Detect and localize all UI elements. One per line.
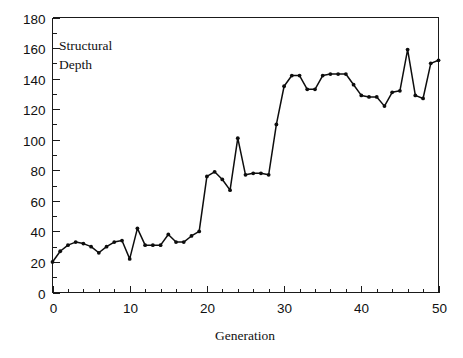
y-tick-label-80: 80 [30, 164, 45, 179]
data-point [166, 233, 170, 237]
x-tick-label-0: 0 [50, 301, 58, 316]
data-point [383, 104, 387, 108]
data-point [112, 240, 116, 244]
data-point [244, 173, 248, 177]
y-tick-label-60: 60 [30, 195, 45, 210]
y-tick-label-100: 100 [23, 134, 46, 149]
data-point [367, 95, 371, 99]
x-tick-label-30: 30 [277, 301, 292, 316]
x-axis-ticks [54, 286, 440, 293]
data-point [321, 74, 325, 78]
data-point [298, 74, 302, 78]
data-point [228, 188, 232, 192]
x-tick-label-40: 40 [354, 301, 369, 316]
x-tick-label-50: 50 [432, 301, 447, 316]
data-point [97, 251, 101, 255]
data-point [159, 243, 163, 247]
data-point [429, 61, 433, 65]
data-point [136, 226, 140, 230]
line-chart: 020406080100120140160180 01020304050 Str… [0, 0, 463, 358]
data-point [390, 90, 394, 94]
data-point [274, 123, 278, 127]
data-point [213, 170, 217, 174]
data-series-line [53, 50, 439, 262]
data-point [205, 174, 209, 178]
data-point [251, 171, 255, 175]
data-point [51, 260, 55, 264]
data-point [220, 178, 224, 182]
y-tick-label-160: 160 [23, 42, 46, 57]
y-tick-label-180: 180 [23, 12, 46, 27]
x-axis-tick-labels: 01020304050 [50, 301, 447, 316]
data-point [236, 136, 240, 140]
data-point [58, 249, 62, 253]
x-axis-title: Generation [215, 328, 275, 343]
y-tick-label-120: 120 [23, 103, 46, 118]
data-point [105, 245, 109, 249]
y-tick-label-0: 0 [38, 287, 46, 302]
series-label-line1: Structural [59, 38, 112, 53]
data-point [89, 245, 93, 249]
data-point [74, 240, 78, 244]
data-point [267, 173, 271, 177]
series-label-line2: Depth [59, 57, 92, 72]
data-point [352, 83, 356, 87]
data-point [128, 257, 132, 261]
data-point [398, 89, 402, 93]
y-axis-tick-labels: 020406080100120140160180 [23, 12, 46, 302]
y-tick-label-140: 140 [23, 73, 46, 88]
data-point [174, 240, 178, 244]
x-tick-label-20: 20 [200, 301, 215, 316]
data-point [344, 72, 348, 76]
chart-container: 020406080100120140160180 01020304050 Str… [0, 0, 463, 358]
data-point [313, 87, 317, 91]
plot-frame [53, 18, 439, 293]
data-point [190, 234, 194, 238]
data-point [359, 94, 363, 98]
data-point [437, 58, 441, 62]
data-point [259, 171, 263, 175]
data-point [406, 48, 410, 52]
data-point [197, 229, 201, 233]
data-point [290, 74, 294, 78]
data-point [182, 240, 186, 244]
data-point [120, 239, 124, 243]
data-point [282, 84, 286, 88]
y-tick-label-40: 40 [30, 225, 45, 240]
data-point [375, 95, 379, 99]
data-point [305, 87, 309, 91]
data-point [336, 72, 340, 76]
data-series-markers [51, 48, 441, 264]
data-point [151, 243, 155, 247]
data-point [413, 94, 417, 98]
data-point [66, 243, 70, 247]
x-tick-label-10: 10 [123, 301, 138, 316]
data-point [421, 97, 425, 101]
data-point [329, 72, 333, 76]
y-tick-label-20: 20 [30, 256, 45, 271]
data-point [143, 243, 147, 247]
data-point [81, 242, 85, 246]
